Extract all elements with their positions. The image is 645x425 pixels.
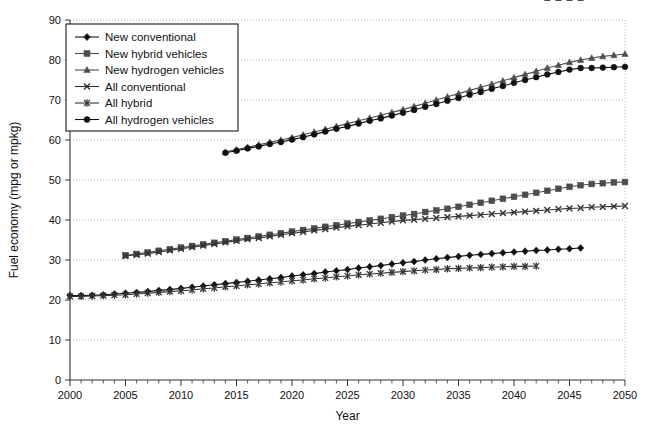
data-point-marker: [389, 113, 395, 119]
data-point-marker: [400, 110, 406, 116]
y-tick-label: 20: [49, 294, 61, 306]
data-point-marker: [589, 65, 595, 71]
data-point-marker: [622, 179, 628, 185]
data-point-marker: [300, 134, 306, 140]
x-tick-label: 2045: [557, 389, 581, 401]
data-point-marker: [478, 200, 484, 206]
x-tick-label: 2000: [58, 389, 82, 401]
data-point-marker: [278, 139, 284, 145]
data-point-marker: [378, 116, 384, 122]
data-point-marker: [84, 51, 90, 57]
data-point-marker: [367, 263, 373, 270]
data-point-marker: [489, 86, 495, 92]
data-point-marker: [544, 247, 550, 254]
data-point-marker: [400, 259, 406, 266]
y-tick-label: 90: [49, 14, 61, 26]
x-tick-label: 2005: [113, 389, 137, 401]
data-point-marker: [544, 72, 550, 78]
data-point-marker: [533, 74, 539, 80]
x-tick-label: 2030: [391, 389, 415, 401]
data-point-marker: [433, 101, 439, 107]
legend-label: All conventional: [105, 81, 186, 93]
y-tick-label: 70: [49, 94, 61, 106]
y-axis-title: Fuel economy (mpg or mpkg): [7, 122, 21, 279]
data-point-marker: [334, 126, 340, 132]
data-point-marker: [511, 194, 517, 200]
data-point-marker: [433, 208, 439, 214]
data-point-marker: [522, 192, 528, 198]
data-point-marker: [411, 211, 417, 217]
x-tick-label: 2025: [335, 389, 359, 401]
data-point-marker: [556, 186, 562, 192]
data-point-marker: [611, 180, 617, 186]
data-point-marker: [467, 202, 473, 208]
data-point-marker: [345, 124, 351, 130]
y-tick-label: 60: [49, 134, 61, 146]
data-point-marker: [389, 261, 395, 268]
fuel-economy-chart: 0102030405060708090200020052010201520202…: [0, 0, 645, 425]
data-point-marker: [422, 257, 428, 264]
data-point-marker: [289, 137, 295, 143]
data-point-marker: [245, 146, 251, 152]
legend-label: New hydrogen vehicles: [105, 64, 224, 76]
data-point-marker: [422, 209, 428, 215]
data-point-marker: [489, 198, 495, 204]
chart-canvas: 0102030405060708090200020052010201520202…: [0, 0, 645, 425]
x-tick-label: 2010: [169, 389, 193, 401]
data-point-marker: [223, 150, 229, 156]
data-point-marker: [622, 64, 628, 70]
x-tick-label: 2020: [280, 389, 304, 401]
x-tick-label: 2050: [613, 389, 637, 401]
data-point-marker: [577, 245, 583, 252]
y-tick-label: 40: [49, 214, 61, 226]
data-point-marker: [500, 196, 506, 202]
data-point-marker: [600, 180, 606, 186]
data-point-marker: [322, 129, 328, 135]
x-tick-label: 2035: [446, 389, 470, 401]
x-tick-label: 2015: [224, 389, 248, 401]
series-all-conventional: [123, 203, 628, 259]
data-point-marker: [234, 148, 240, 154]
y-tick-label: 80: [49, 54, 61, 66]
x-axis-title: Year: [335, 409, 359, 423]
data-point-marker: [478, 251, 484, 258]
data-point-marker: [445, 206, 451, 212]
data-point-marker: [500, 83, 506, 89]
data-point-marker: [422, 104, 428, 110]
series-new-hydrogen-vehicles: [222, 51, 628, 155]
y-tick-label: 10: [49, 334, 61, 346]
data-point-marker: [356, 121, 362, 127]
data-point-marker: [511, 80, 517, 86]
chart-legend: New conventionalNew hybrid vehiclesNew h…: [66, 24, 238, 131]
data-point-marker: [566, 245, 572, 252]
legend-label: New conventional: [105, 31, 196, 43]
series-all-hydrogen-vehicles: [223, 64, 628, 156]
y-tick-label: 50: [49, 174, 61, 186]
data-point-marker: [467, 92, 473, 98]
data-point-marker: [344, 266, 350, 273]
data-point-marker: [456, 204, 462, 210]
data-point-marker: [511, 249, 517, 256]
data-point-marker: [544, 188, 550, 194]
data-point-marker: [84, 117, 90, 123]
data-point-marker: [445, 98, 451, 104]
data-point-marker: [555, 246, 561, 253]
y-tick-label: 30: [49, 254, 61, 266]
data-point-marker: [433, 255, 439, 262]
y-tick-label: 0: [55, 374, 61, 386]
data-point-marker: [622, 51, 628, 57]
data-point-marker: [378, 262, 384, 269]
data-point-marker: [578, 182, 584, 188]
data-point-marker: [455, 253, 461, 260]
legend-label: All hybrid: [105, 97, 152, 109]
data-point-marker: [611, 64, 617, 70]
data-point-marker: [522, 248, 528, 255]
data-point-marker: [567, 67, 573, 73]
data-point-marker: [556, 69, 562, 75]
data-point-marker: [533, 190, 539, 196]
legend-label: New hybrid vehicles: [105, 48, 208, 60]
data-point-marker: [256, 144, 262, 150]
data-point-marker: [411, 258, 417, 265]
data-point-marker: [522, 77, 528, 83]
data-point-marker: [500, 249, 506, 256]
